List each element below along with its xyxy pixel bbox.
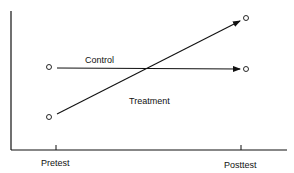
control-pretest-point <box>47 65 52 70</box>
treatment-pretest-point <box>47 115 52 120</box>
treatment-label: Treatment <box>129 96 170 106</box>
chart: Control Treatment Pretest Posttest <box>0 0 294 173</box>
treatment-posttest-point <box>244 16 249 21</box>
control-posttest-point <box>244 67 249 72</box>
x-tick-label-posttest: Posttest <box>224 160 257 170</box>
control-label: Control <box>85 55 114 65</box>
control-line <box>57 68 240 69</box>
x-tick-label-pretest: Pretest <box>41 158 70 168</box>
